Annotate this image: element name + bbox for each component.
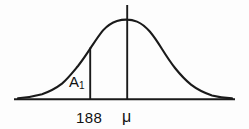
area-label: A1: [69, 74, 85, 91]
bell-curve-path: [18, 20, 232, 99]
normal-curve-figure: A1 188 μ: [0, 0, 249, 129]
area-label-symbol: A: [69, 73, 79, 90]
x-tick-label-mu: μ: [122, 109, 131, 125]
area-label-subscript: 1: [79, 80, 85, 91]
x-tick-label-188: 188: [76, 110, 102, 125]
